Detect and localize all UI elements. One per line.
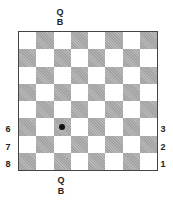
board-square bbox=[36, 67, 53, 84]
board-square bbox=[19, 32, 36, 49]
board-square bbox=[54, 101, 71, 118]
board-square bbox=[36, 49, 53, 66]
board-square bbox=[140, 153, 157, 170]
board-square bbox=[36, 118, 53, 135]
left-rank-label-6: 6 bbox=[3, 125, 13, 134]
board-square bbox=[54, 136, 71, 153]
board-square bbox=[123, 101, 140, 118]
board-square bbox=[71, 118, 88, 135]
board-square bbox=[140, 136, 157, 153]
board-square bbox=[19, 49, 36, 66]
right-rank-label-2: 2 bbox=[158, 143, 168, 152]
marker-dot-icon bbox=[59, 124, 65, 130]
board-square bbox=[140, 118, 157, 135]
board-square bbox=[19, 101, 36, 118]
board-square bbox=[54, 67, 71, 84]
board-square bbox=[19, 67, 36, 84]
right-rank-label-3: 3 bbox=[158, 125, 168, 134]
top-file-label-b: B bbox=[55, 18, 65, 27]
board-square bbox=[140, 101, 157, 118]
board-square bbox=[140, 67, 157, 84]
board-square bbox=[88, 67, 105, 84]
board-square bbox=[88, 136, 105, 153]
board-square bbox=[19, 153, 36, 170]
board-square bbox=[71, 49, 88, 66]
board-square bbox=[123, 32, 140, 49]
left-rank-label-7: 7 bbox=[3, 143, 13, 152]
board-square bbox=[36, 153, 53, 170]
board-square bbox=[71, 136, 88, 153]
board-square bbox=[105, 67, 122, 84]
board-square bbox=[36, 136, 53, 153]
board-square bbox=[123, 84, 140, 101]
bottom-file-label-b: B bbox=[56, 187, 66, 196]
board-square bbox=[105, 49, 122, 66]
board-square bbox=[88, 32, 105, 49]
board-square bbox=[123, 118, 140, 135]
board-square bbox=[19, 118, 36, 135]
board-square bbox=[140, 49, 157, 66]
board-square bbox=[19, 136, 36, 153]
board-square bbox=[140, 32, 157, 49]
chess-board bbox=[18, 31, 158, 171]
top-file-label-q: Q bbox=[55, 8, 65, 17]
board-square bbox=[105, 153, 122, 170]
board-square bbox=[36, 32, 53, 49]
board-square bbox=[123, 136, 140, 153]
board-square bbox=[54, 32, 71, 49]
board-square bbox=[54, 49, 71, 66]
board-square bbox=[88, 118, 105, 135]
board-square bbox=[105, 32, 122, 49]
board-square bbox=[71, 153, 88, 170]
right-rank-label-1: 1 bbox=[158, 160, 168, 169]
board-square bbox=[71, 32, 88, 49]
left-rank-label-8: 8 bbox=[3, 160, 13, 169]
board-square bbox=[19, 84, 36, 101]
board-square bbox=[54, 153, 71, 170]
board-square bbox=[54, 84, 71, 101]
board-square bbox=[36, 101, 53, 118]
board-square bbox=[105, 84, 122, 101]
board-square bbox=[88, 84, 105, 101]
board-square bbox=[140, 84, 157, 101]
board-square bbox=[123, 67, 140, 84]
board-square bbox=[88, 101, 105, 118]
board-square bbox=[105, 118, 122, 135]
board-square bbox=[54, 118, 71, 135]
board-square bbox=[105, 101, 122, 118]
board-square bbox=[71, 101, 88, 118]
bottom-file-label-q: Q bbox=[56, 176, 66, 185]
board-square bbox=[123, 49, 140, 66]
board-square bbox=[88, 49, 105, 66]
board-square bbox=[105, 136, 122, 153]
board-square bbox=[36, 84, 53, 101]
board-square bbox=[71, 67, 88, 84]
board-square bbox=[123, 153, 140, 170]
board-square bbox=[71, 84, 88, 101]
board-square bbox=[88, 153, 105, 170]
